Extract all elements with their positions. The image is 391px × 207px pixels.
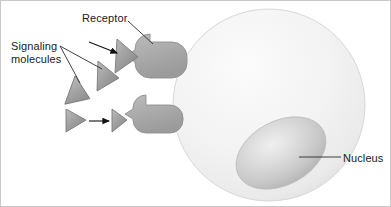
signaling-label-line-2: molecules <box>11 53 61 65</box>
receptor-label: Receptor <box>82 12 127 25</box>
signaling-label-line-1: Signaling <box>11 40 57 52</box>
signaling-molecules-label: Signalingmolecules <box>11 40 61 65</box>
cell-signaling-diagram: Receptor Signalingmolecules Nucleus <box>0 0 391 207</box>
nucleus-label: Nucleus <box>343 152 383 165</box>
diagram-canvas <box>1 1 391 207</box>
arrow-upper-binding <box>89 42 117 53</box>
molecule-free-bottom <box>65 76 95 111</box>
molecule-bound-lower <box>112 109 127 132</box>
molecule-free-lower-left <box>66 109 86 132</box>
molecule-bound-upper <box>115 39 138 73</box>
